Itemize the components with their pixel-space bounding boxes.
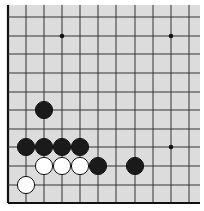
white-stone[interactable] [71, 157, 88, 174]
go-board [0, 0, 204, 211]
white-stone[interactable] [17, 176, 34, 193]
black-stone[interactable] [17, 138, 34, 155]
star-point-icon [60, 34, 65, 39]
star-point-icon [169, 145, 174, 150]
black-stone[interactable] [71, 138, 88, 155]
black-stone[interactable] [89, 157, 106, 174]
white-stone[interactable] [35, 157, 52, 174]
black-stone[interactable] [126, 157, 143, 174]
black-stone[interactable] [35, 138, 52, 155]
black-stone[interactable] [53, 138, 70, 155]
black-stone[interactable] [35, 101, 52, 118]
white-stone[interactable] [53, 157, 70, 174]
star-point-icon [169, 34, 174, 39]
